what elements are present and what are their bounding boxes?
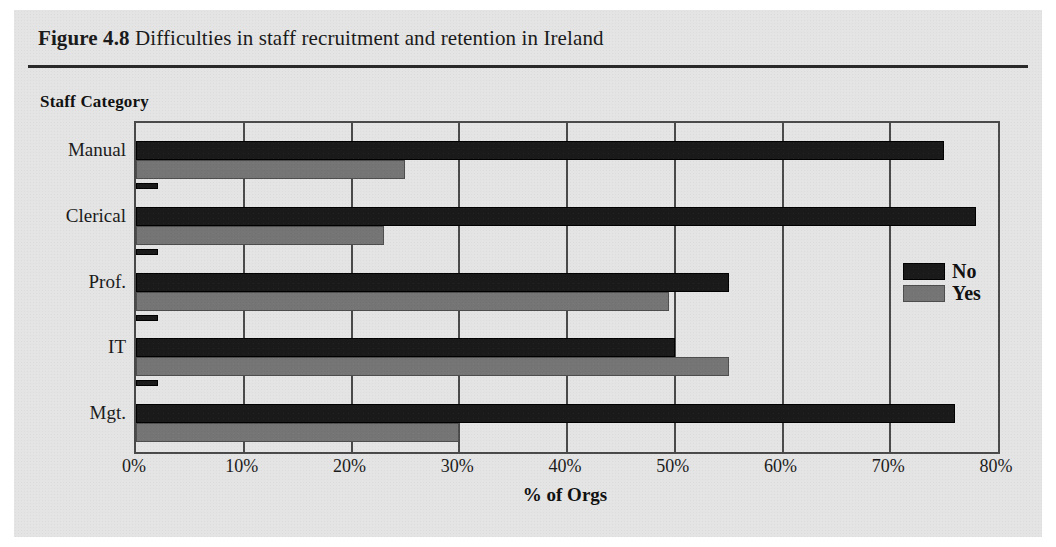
legend-item-no: No: [903, 260, 1023, 282]
x-tick-30pct: 30%: [441, 456, 474, 477]
bar-group-prof: [136, 255, 998, 321]
legend-swatch-yes-icon: [903, 285, 945, 302]
bar-group-it: [136, 320, 998, 386]
y-tick-prof: Prof.: [89, 271, 126, 293]
figure-panel: Figure 4.8 Difficulties in staff recruit…: [14, 10, 1042, 537]
x-tick-60pct: 60%: [764, 456, 797, 477]
y-tick-it: IT: [108, 336, 126, 358]
legend-label: Yes: [952, 283, 981, 303]
x-tick-80pct: 80%: [980, 456, 1013, 477]
bar-it-no: [136, 338, 675, 357]
bar-it-yes: [136, 357, 729, 376]
bar-prof-no: [136, 273, 729, 292]
chart-legend: NoYes: [903, 260, 1023, 304]
x-axis-title: % of Orgs: [134, 484, 996, 506]
y-tick-mgt: Mgt.: [90, 402, 126, 424]
bar-group-manual: [136, 123, 998, 189]
y-tick-clerical: Clerical: [66, 205, 126, 227]
chart-canvas: ManualClericalProf.ITMgt. 0%10%20%30%40%…: [14, 10, 1042, 537]
bar-group-mgt: [136, 386, 998, 452]
y-tick-manual: Manual: [68, 139, 126, 161]
bar-mgt-no: [136, 404, 955, 423]
x-tick-50pct: 50%: [656, 456, 689, 477]
legend-label: No: [952, 261, 976, 281]
bar-manual-no: [136, 141, 944, 160]
bar-prof-yes: [136, 292, 669, 311]
x-tick-70pct: 70%: [872, 456, 905, 477]
bar-mgt-yes: [136, 423, 459, 442]
x-tick-10pct: 10%: [225, 456, 258, 477]
x-tick-0pct: 0%: [122, 456, 146, 477]
legend-swatch-no-icon: [903, 263, 945, 280]
bar-group-clerical: [136, 189, 998, 255]
legend-item-yes: Yes: [903, 282, 1023, 304]
plot-area: [134, 121, 1000, 454]
bar-clerical-no: [136, 207, 976, 226]
x-tick-40pct: 40%: [549, 456, 582, 477]
x-tick-20pct: 20%: [333, 456, 366, 477]
bar-clerical-yes: [136, 226, 384, 245]
y-axis-tick-labels: ManualClericalProf.ITMgt.: [14, 121, 126, 450]
x-axis-tick-labels: 0%10%20%30%40%50%60%70%80%: [134, 456, 996, 482]
bar-manual-yes: [136, 160, 405, 179]
